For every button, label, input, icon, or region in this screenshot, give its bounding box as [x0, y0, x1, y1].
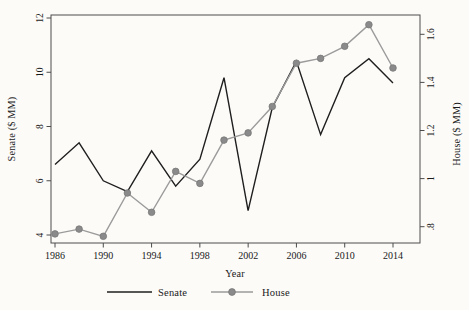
house-marker	[172, 168, 179, 175]
house-marker	[100, 233, 107, 240]
right-tick-label: 1.2	[426, 124, 436, 136]
x-axis-title: Year	[225, 268, 245, 279]
house-line	[55, 25, 393, 237]
house-marker	[76, 226, 83, 233]
right-tick-label: .8	[426, 223, 436, 230]
right-tick-label: 1	[426, 176, 436, 181]
x-tick-label: 2002	[238, 250, 258, 261]
x-tick-label: 1986	[45, 250, 65, 261]
senate-line	[55, 59, 393, 211]
legend-senate-label: Senate	[158, 287, 187, 298]
left-tick-label: 6	[35, 178, 45, 183]
left-tick-label: 10	[35, 67, 45, 77]
legend: Senate House	[107, 287, 290, 298]
house-marker	[197, 180, 204, 187]
house-marker	[124, 190, 131, 197]
x-tick-label: 1998	[190, 250, 210, 261]
series-layer	[52, 21, 397, 239]
line-chart: 4681012.811.21.41.6198619901994199820022…	[0, 0, 469, 310]
x-tick-label: 2006	[286, 250, 306, 261]
left-tick-label: 12	[35, 13, 45, 23]
legend-house-label: House	[262, 287, 290, 298]
house-marker	[390, 65, 397, 72]
house-marker	[293, 60, 300, 67]
x-tick-label: 1994	[142, 250, 162, 261]
right-axis-title: House ($ MM)	[451, 102, 463, 166]
left-axis-title: Senate ($ MM)	[6, 97, 18, 162]
house-marker	[366, 21, 373, 28]
x-tick-label: 1990	[93, 250, 113, 261]
house-marker	[245, 130, 252, 137]
house-marker	[341, 43, 348, 50]
right-tick-label: 1.6	[426, 28, 436, 40]
house-marker	[148, 209, 155, 216]
x-tick-label: 2010	[335, 250, 355, 261]
right-tick-label: 1.4	[426, 76, 436, 88]
house-marker	[52, 231, 59, 238]
left-tick-label: 4	[35, 232, 45, 237]
house-marker	[221, 137, 228, 144]
senate-house-spending-figure: 4681012.811.21.41.6198619901994199820022…	[0, 0, 469, 310]
left-tick-label: 8	[35, 124, 45, 129]
house-marker	[317, 55, 324, 62]
plot-frame	[51, 15, 420, 243]
legend-house-marker	[229, 289, 236, 296]
house-marker	[269, 103, 276, 110]
x-tick-label: 2014	[383, 250, 403, 261]
